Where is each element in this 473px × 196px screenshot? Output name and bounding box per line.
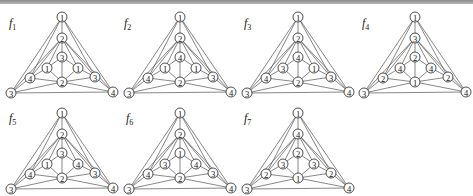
graph-edge [11, 188, 113, 189]
graph-label-f2: f2 [124, 16, 131, 32]
graph-node-upper: 2 [175, 33, 185, 44]
graph-node-mid-left: 4 [25, 169, 35, 180]
graph-edge [247, 82, 298, 93]
graph-edge [129, 82, 180, 93]
graph-f6: 1213443234 [124, 108, 236, 195]
graph-node-mid-left: 4 [261, 73, 271, 84]
graph-node-mid-right: 3 [326, 72, 336, 83]
graph-node-inner-left: 4 [395, 63, 405, 74]
graph-node-bottom-right: 4 [226, 87, 236, 98]
graph-edge [247, 134, 298, 189]
node-color-label: 1 [178, 109, 182, 119]
node-color-label: 2 [413, 53, 417, 63]
graph-edge [364, 38, 415, 93]
graph-node-top: 1 [175, 108, 185, 119]
graph-node-mid-right: 3 [208, 72, 218, 83]
node-color-label: 3 [93, 169, 97, 179]
graph-node-inner-right: 4 [191, 159, 201, 170]
node-color-label: 2 [446, 73, 450, 83]
graph-node-inner-left: 3 [278, 159, 288, 170]
graph-node-inner-right: 3 [309, 159, 319, 170]
graph-node-inner-left: 3 [278, 63, 288, 74]
graph-node-bottom-right: 4 [108, 183, 118, 194]
graph-node-inner-top: 3 [57, 52, 67, 63]
graph-edge [62, 134, 113, 188]
graph-node-inner-right: 4 [73, 159, 83, 170]
graph-edge [62, 38, 113, 92]
graph-node-mid-right: 2 [326, 168, 336, 179]
node-color-label: 1 [178, 13, 182, 23]
graph-node-inner-left: 1 [42, 63, 52, 74]
graph-node-bottom-right: 4 [226, 183, 236, 194]
node-color-label: 1 [194, 64, 198, 74]
graph-edge [298, 134, 349, 188]
graph-node-upper: 2 [293, 33, 303, 44]
graph-node-bottom-center: 1 [293, 173, 303, 184]
graph-label-f7: f7 [244, 111, 251, 127]
graph-edge [11, 178, 62, 189]
node-color-label: 2 [296, 34, 300, 44]
graph-node-bottom-center: 2 [57, 77, 67, 88]
node-color-label: 2 [178, 130, 182, 140]
graph-edge [180, 38, 231, 92]
node-color-label: 2 [296, 149, 300, 159]
graph-node-bottom-left: 3 [242, 184, 252, 195]
graph-node-upper: 2 [175, 129, 185, 140]
graph-node-top: 1 [410, 12, 420, 23]
graph-edge [11, 17, 62, 93]
graph-node-inner-top: 4 [293, 52, 303, 63]
graph-node-mid-right: 2 [443, 72, 453, 83]
graph-coloring-figure: 1231143234f11241143234f21243143234f31324… [0, 0, 473, 196]
graph-node-bottom-left: 3 [359, 88, 369, 99]
graph-node-bottom-right: 4 [344, 183, 354, 194]
node-color-label: 3 [93, 73, 97, 83]
node-color-label: 1 [76, 64, 80, 74]
node-color-label: 3 [127, 89, 131, 99]
graph-edge [11, 113, 62, 189]
node-color-label: 1 [296, 109, 300, 119]
graph-label-f3: f3 [244, 16, 251, 32]
graph-node-top: 1 [57, 12, 67, 23]
graph-edge [247, 178, 298, 189]
graph-edge [247, 92, 349, 93]
graph-node-inner-left: 1 [160, 63, 170, 74]
graph-node-mid-left: 4 [25, 73, 35, 84]
graph-node-bottom-center: 1 [410, 77, 420, 88]
node-color-label: 3 [281, 64, 285, 74]
node-color-label: 1 [413, 78, 417, 88]
graph-edge [247, 38, 298, 93]
node-color-label: 1 [163, 64, 167, 74]
node-color-label: 3 [329, 73, 333, 83]
node-color-label: 3 [245, 89, 249, 99]
node-color-label: 1 [413, 13, 417, 23]
graph-edge [129, 134, 180, 189]
graph-node-inner-top: 3 [57, 148, 67, 159]
node-color-label: 1 [296, 13, 300, 23]
graph-node-mid-left: 4 [143, 169, 153, 180]
node-color-label: 2 [178, 174, 182, 184]
graph-node-inner-left: 1 [42, 159, 52, 170]
graph-node-upper: 4 [293, 129, 303, 140]
node-color-label: 2 [264, 170, 268, 180]
graph-node-bottom-right: 4 [344, 87, 354, 98]
graph-edge [180, 134, 231, 188]
graph-edge [247, 17, 298, 93]
graph-f7: 1423322134 [242, 108, 354, 195]
node-color-label: 3 [9, 185, 13, 195]
node-color-label: 1 [312, 64, 316, 74]
graph-node-mid-left: 2 [261, 169, 271, 180]
node-color-label: 2 [178, 78, 182, 88]
node-color-label: 2 [60, 174, 64, 184]
graph-node-bottom-left: 3 [242, 88, 252, 99]
graph-node-inner-right: 1 [73, 63, 83, 74]
node-color-label: 3 [362, 89, 366, 99]
graph-node-upper: 2 [57, 33, 67, 44]
graph-edge [415, 38, 466, 92]
graph-node-upper: 2 [57, 129, 67, 140]
graph-f2: 1241143234 [124, 12, 236, 99]
node-color-label: 2 [381, 74, 385, 84]
graph-node-top: 1 [175, 12, 185, 23]
graph-f4: 1324422134 [359, 12, 471, 99]
node-color-label: 3 [281, 160, 285, 170]
node-color-label: 3 [163, 160, 167, 170]
